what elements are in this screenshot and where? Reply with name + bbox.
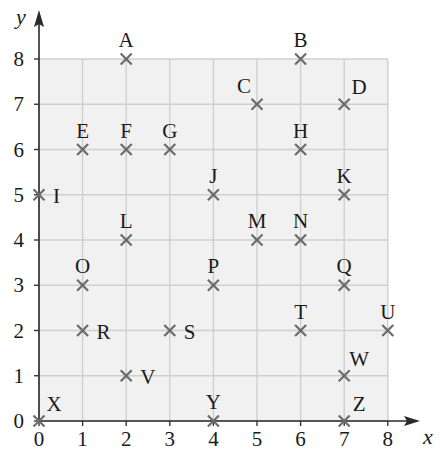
x-axis-label: x xyxy=(422,424,433,449)
point-label: F xyxy=(120,119,132,143)
point-label: S xyxy=(184,320,196,344)
point-label: U xyxy=(380,300,395,324)
point-label: A xyxy=(119,28,135,52)
point-label: Z xyxy=(353,392,366,416)
y-tick-label: 1 xyxy=(14,364,25,388)
x-tick-label: 6 xyxy=(295,427,306,451)
point-label: L xyxy=(120,209,133,233)
point-label: Q xyxy=(337,254,352,278)
y-tick-label: 0 xyxy=(14,409,25,433)
y-tick-label: 8 xyxy=(14,47,25,71)
y-axis-label: y xyxy=(14,4,26,29)
x-tick-label: 2 xyxy=(121,427,132,451)
point-label: Y xyxy=(206,390,221,414)
point-label: D xyxy=(352,75,367,99)
x-tick-label: 3 xyxy=(165,427,176,451)
point-label: K xyxy=(337,164,352,188)
point-label: O xyxy=(75,254,90,278)
point-label: B xyxy=(294,28,308,52)
point-label: J xyxy=(209,164,217,188)
y-tick-label: 5 xyxy=(14,183,25,207)
x-tick-label: 8 xyxy=(383,427,394,451)
point-label: H xyxy=(293,119,308,143)
point-label: I xyxy=(53,184,60,208)
point-label: M xyxy=(248,209,267,233)
x-tick-label: 5 xyxy=(252,427,263,451)
x-tick-label: 1 xyxy=(77,427,88,451)
y-tick-label: 6 xyxy=(14,138,25,162)
point-label: X xyxy=(46,392,61,416)
point-label: G xyxy=(162,119,177,143)
point-label: C xyxy=(237,74,251,98)
point-label: V xyxy=(140,365,155,389)
x-tick-label: 7 xyxy=(339,427,350,451)
point-label: N xyxy=(293,209,308,233)
point-label: R xyxy=(97,320,111,344)
coordinate-grid: xy 012345678012345678 ABCDEFGHIJKLMNOPQR… xyxy=(0,0,440,471)
x-tick-label: 0 xyxy=(34,427,45,451)
point-label: E xyxy=(76,119,89,143)
y-tick-label: 7 xyxy=(14,92,25,116)
x-tick-label: 4 xyxy=(208,427,219,451)
y-tick-label: 4 xyxy=(14,228,25,252)
y-tick-label: 2 xyxy=(14,319,25,343)
y-tick-label: 3 xyxy=(14,273,25,297)
point-label: T xyxy=(294,300,307,324)
point-label: W xyxy=(349,347,369,371)
point-label: P xyxy=(208,254,220,278)
